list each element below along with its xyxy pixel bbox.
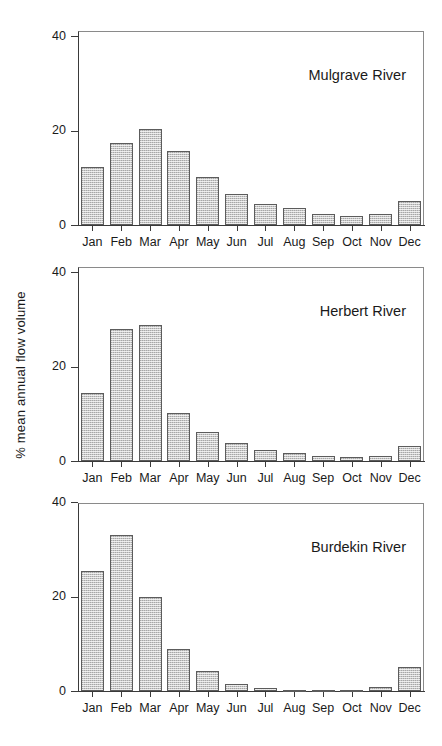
bar-herbert-river-jun: [225, 443, 248, 461]
bar-mulgrave-river-jul: [254, 204, 277, 225]
bar-herbert-river-dec: [398, 446, 421, 461]
panel-title-mulgrave-river: Mulgrave River: [309, 68, 407, 83]
y-axis-tick-0: [71, 461, 78, 462]
bar-mulgrave-river-mar: [139, 129, 162, 225]
x-axis-tick-sep: [323, 462, 324, 467]
x-axis-tick-jun: [237, 462, 238, 467]
y-axis-tick-label-0: 0: [36, 455, 66, 468]
bar-burdekin-river-nov: [369, 687, 392, 691]
bar-burdekin-river-jan: [81, 571, 104, 691]
x-axis-tick-sep: [323, 226, 324, 231]
x-axis-tick-may: [208, 462, 209, 467]
bar-mulgrave-river-dec: [398, 201, 421, 225]
bar-herbert-river-jul: [254, 450, 277, 461]
x-axis-tick-jul: [265, 692, 266, 697]
x-axis-line: [78, 461, 425, 462]
x-axis-tick-apr: [179, 692, 180, 697]
bar-mulgrave-river-jun: [225, 194, 248, 225]
x-axis-tick-may: [208, 226, 209, 231]
y-axis-tick-20: [71, 597, 78, 598]
y-axis-tick-label-40: 40: [36, 266, 66, 279]
bar-herbert-river-oct: [340, 457, 363, 461]
bar-burdekin-river-feb: [110, 535, 133, 691]
bar-herbert-river-aug: [283, 453, 306, 461]
y-axis-tick-40: [71, 502, 78, 503]
x-axis-tick-sep: [323, 692, 324, 697]
y-axis-tick-label-40: 40: [36, 496, 66, 509]
bar-mulgrave-river-jan: [81, 167, 104, 225]
x-axis-tick-may: [208, 692, 209, 697]
x-axis-tick-aug: [294, 462, 295, 467]
y-axis-tick-20: [71, 131, 78, 132]
x-axis-tick-jan: [92, 692, 93, 697]
bar-herbert-river-sep: [312, 456, 335, 461]
x-axis-tick-feb: [121, 462, 122, 467]
chart-panel-herbert-river: 02040JanFebMarAprMayJunJulAugSepOctNovDe…: [0, 236, 442, 486]
y-axis-tick-label-20: 20: [36, 124, 66, 137]
chart-panel-burdekin-river: 02040JanFebMarAprMayJunJulAugSepOctNovDe…: [0, 472, 442, 746]
x-axis-tick-mar: [150, 226, 151, 231]
bar-mulgrave-river-aug: [283, 208, 306, 225]
y-axis-tick-40: [71, 36, 78, 37]
bar-burdekin-river-jun: [225, 684, 248, 691]
x-axis-tick-oct: [352, 692, 353, 697]
x-axis-tick-dec: [410, 226, 411, 231]
x-axis-tick-mar: [150, 692, 151, 697]
y-axis-tick-label-0: 0: [36, 219, 66, 232]
bar-mulgrave-river-feb: [110, 143, 133, 225]
y-axis-tick-0: [71, 225, 78, 226]
x-axis-line: [78, 225, 425, 226]
bar-mulgrave-river-nov: [369, 214, 392, 225]
bar-burdekin-river-may: [196, 671, 219, 691]
x-axis-tick-jan: [92, 462, 93, 467]
y-axis-tick-40: [71, 272, 78, 273]
bar-burdekin-river-mar: [139, 597, 162, 691]
bar-burdekin-river-dec: [398, 667, 421, 691]
bar-herbert-river-feb: [110, 329, 133, 461]
x-axis-label-dec: Dec: [390, 702, 430, 715]
bar-burdekin-river-apr: [167, 649, 190, 691]
x-axis-tick-dec: [410, 462, 411, 467]
x-axis-tick-feb: [121, 226, 122, 231]
figure-river-flow: % mean annual flow volume 02040JanFebMar…: [0, 0, 442, 746]
bar-herbert-river-nov: [369, 456, 392, 461]
panel-title-burdekin-river: Burdekin River: [311, 540, 406, 555]
y-axis-tick-20: [71, 367, 78, 368]
x-axis-tick-jun: [237, 692, 238, 697]
bar-mulgrave-river-apr: [167, 151, 190, 225]
x-axis-tick-apr: [179, 462, 180, 467]
bar-herbert-river-may: [196, 432, 219, 461]
bar-mulgrave-river-sep: [312, 214, 335, 225]
x-axis-tick-jul: [265, 226, 266, 231]
bar-herbert-river-jan: [81, 393, 104, 461]
bar-mulgrave-river-oct: [340, 216, 363, 225]
x-axis-tick-jun: [237, 226, 238, 231]
x-axis-tick-nov: [381, 226, 382, 231]
bar-herbert-river-apr: [167, 413, 190, 461]
x-axis-tick-oct: [352, 226, 353, 231]
x-axis-tick-dec: [410, 692, 411, 697]
x-axis-tick-nov: [381, 462, 382, 467]
x-axis-tick-jul: [265, 462, 266, 467]
x-axis-tick-aug: [294, 226, 295, 231]
x-axis-tick-jan: [92, 226, 93, 231]
chart-panel-mulgrave-river: 02040JanFebMarAprMayJunJulAugSepOctNovDe…: [0, 0, 442, 250]
bar-herbert-river-mar: [139, 325, 162, 461]
bar-burdekin-river-jul: [254, 688, 277, 691]
y-axis-tick-0: [71, 691, 78, 692]
y-axis-tick-label-20: 20: [36, 360, 66, 373]
panel-title-herbert-river: Herbert River: [320, 304, 406, 319]
x-axis-tick-nov: [381, 692, 382, 697]
y-axis-tick-label-40: 40: [36, 30, 66, 43]
y-axis-tick-label-0: 0: [36, 685, 66, 698]
x-axis-tick-oct: [352, 462, 353, 467]
x-axis-tick-aug: [294, 692, 295, 697]
x-axis-tick-apr: [179, 226, 180, 231]
x-axis-tick-mar: [150, 462, 151, 467]
x-axis-tick-feb: [121, 692, 122, 697]
y-axis-tick-label-20: 20: [36, 590, 66, 603]
x-axis-line: [78, 691, 425, 692]
bar-mulgrave-river-may: [196, 177, 219, 225]
